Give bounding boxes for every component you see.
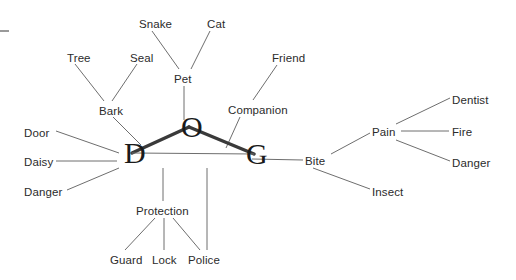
node-tree[interactable]: Tree [67,52,91,64]
edge-snake-pet [152,31,179,69]
node-bite[interactable]: Bite [305,155,325,167]
edge-bite-insect [313,168,370,189]
edge-friend-companion [253,65,277,100]
node-protection[interactable]: Protection [136,205,189,217]
edge-danger_d-D [67,168,119,190]
core-node-d[interactable]: D [124,138,146,168]
node-cat[interactable]: Cat [207,18,225,30]
node-danger_d[interactable]: Danger [24,186,62,198]
edge-tree-bark [75,64,104,101]
core-node-o[interactable]: O [181,112,203,142]
core-edge-D-G [132,153,254,154]
node-lock[interactable]: Lock [152,254,177,266]
node-guard[interactable]: Guard [110,254,142,266]
edge-bite-pain [331,133,370,154]
node-snake[interactable]: Snake [139,18,172,30]
node-companion[interactable]: Companion [228,104,288,116]
node-bark[interactable]: Bark [99,105,123,117]
node-dentist[interactable]: Dentist [452,94,489,106]
node-police[interactable]: Police [188,254,220,266]
node-pain[interactable]: Pain [372,126,395,138]
edge-protection-guard [125,218,155,250]
edge-door-D [56,131,119,153]
node-friend[interactable]: Friend [272,52,305,64]
node-seal[interactable]: Seal [130,52,153,64]
node-daisy[interactable]: Daisy [24,156,53,168]
edge-pain-danger_p [396,140,450,161]
node-pet[interactable]: Pet [174,73,192,85]
node-insect[interactable]: Insect [372,186,403,198]
node-door[interactable]: Door [24,127,49,139]
node-danger_p[interactable]: Danger [452,157,490,169]
node-fire[interactable]: Fire [452,126,472,138]
edge-protection-police [173,218,200,250]
semantic-network-diagram: TreeSealSnakeCatFriendBarkPetCompanionDo… [0,0,516,280]
edge-seal-bark [112,64,137,101]
edge-pain-dentist [396,98,450,124]
edge-cat-pet [191,31,210,69]
core-node-g[interactable]: G [246,139,268,169]
